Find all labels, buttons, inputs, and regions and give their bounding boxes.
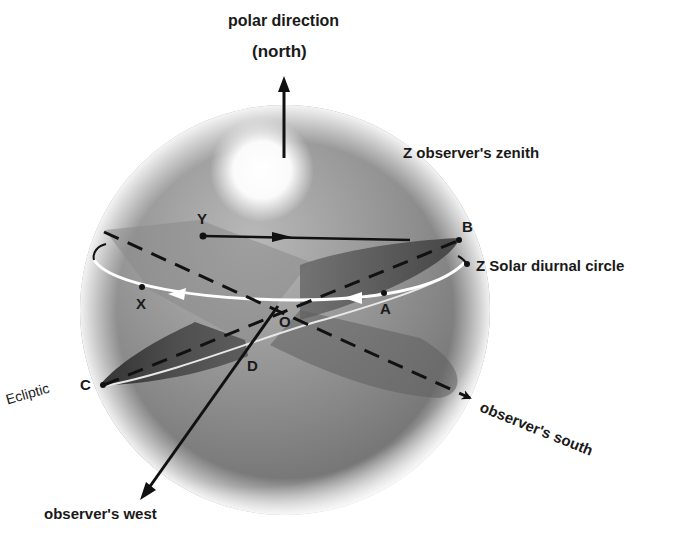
north-label: (north): [252, 42, 307, 62]
west-label: observer's west: [44, 505, 157, 522]
point-d-label: D: [247, 357, 258, 374]
point-c-dot: [100, 382, 106, 388]
polar-arrowhead: [278, 76, 290, 92]
point-y-label: Y: [197, 210, 207, 227]
zenith-glow: [210, 118, 314, 222]
point-z-dot: [464, 261, 470, 267]
zenith-label: Z observer's zenith: [403, 144, 539, 161]
point-b-dot: [456, 237, 462, 243]
point-b-label: B: [462, 218, 473, 235]
polar-direction-label: polar direction: [228, 12, 339, 30]
point-x-label: X: [136, 295, 146, 312]
point-o-label: O: [279, 313, 291, 330]
point-a-dot: [381, 290, 387, 296]
celestial-sphere-diagram: polar direction (north) Z observer's zen…: [0, 0, 696, 542]
point-y-dot: [200, 233, 207, 240]
west-arrowhead: [140, 482, 156, 500]
point-x-dot: [139, 284, 145, 290]
point-a-label: A: [380, 300, 391, 317]
point-c-label: C: [80, 376, 91, 393]
solar-diurnal-circle-label: Z Solar diurnal circle: [476, 257, 624, 274]
